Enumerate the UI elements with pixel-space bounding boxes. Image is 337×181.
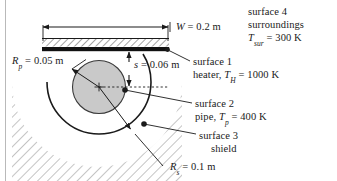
width-equals: = (188, 21, 194, 32)
surface1-detail: heater, TH = 1000 K (193, 68, 279, 85)
heater-bar-surface1 (42, 47, 169, 51)
pipe-radius-equals: = (25, 55, 31, 66)
width-symbol: W (176, 21, 185, 32)
surface2-leader-dot (122, 87, 128, 93)
surface4-temperature: Tsur = 300 K (248, 31, 304, 48)
surface2-detail: pipe, Tp = 400 K (195, 110, 267, 127)
surface4-callout: surface 4 surroundings Tsur = 300 K (248, 5, 304, 48)
surface1-leader-dot (165, 47, 170, 52)
surface4-name: surroundings (248, 18, 304, 31)
surface4-temp-subscript: sur (254, 39, 264, 48)
surface3-callout: surface 3 shield (199, 129, 238, 155)
surface2-temp-value: 400 K (240, 111, 266, 122)
surface2-temp-subscript: p (225, 118, 229, 127)
surface3-title: surface 3 (199, 129, 238, 142)
surface1-title: surface 1 (193, 55, 279, 68)
surface4-title: surface 4 (248, 5, 304, 18)
heater-backing-hatch (42, 39, 169, 47)
shield-radius-label: Rs = 0.1 m (170, 160, 215, 177)
shield-radius-symbol: R (170, 161, 177, 172)
surface4-temp-value: 300 K (275, 32, 301, 43)
surface2-name: pipe, (195, 111, 216, 122)
surface3-leader-dot (141, 121, 147, 127)
pipe-radius-subscript: p (19, 62, 23, 71)
surface2-callout: surface 2 pipe, Tp = 400 K (195, 97, 267, 127)
surface2-temp-equals: = (231, 111, 237, 122)
spacing-symbol: s (134, 59, 138, 70)
surface3-name: shield (199, 142, 238, 155)
spacing-value: 0.06 m (150, 59, 180, 70)
shield-radius-subscript: s (177, 168, 180, 177)
surface4-temp-equals: = (267, 32, 273, 43)
width-value: 0.2 m (196, 21, 220, 32)
pipe-radius-value: 0.05 m (34, 55, 64, 66)
surface1-temp-value: 1000 K (247, 69, 279, 80)
surface2-title: surface 2 (195, 97, 267, 110)
pipe-radius-symbol: R (12, 55, 19, 66)
width-dimension-label: W = 0.2 m (176, 20, 221, 33)
shield-radius-equals: = (182, 161, 188, 172)
spacing-equals: = (141, 59, 147, 70)
surface2-temp-symbol: T (219, 111, 225, 122)
shield-radius-value: 0.1 m (191, 161, 215, 172)
surface1-temp-subscript: H (230, 76, 236, 85)
surface1-name: heater, (193, 69, 222, 80)
surface1-temp-equals: = (239, 69, 245, 80)
spacing-dimension-label: s = 0.06 m (134, 58, 179, 71)
pipe-radius-label: Rp = 0.05 m (12, 54, 64, 71)
radiation-schematic-figure: W = 0.2 m surface 4 surroundings Tsur = … (0, 0, 337, 181)
surface1-callout: surface 1 heater, TH = 1000 K (193, 55, 279, 85)
